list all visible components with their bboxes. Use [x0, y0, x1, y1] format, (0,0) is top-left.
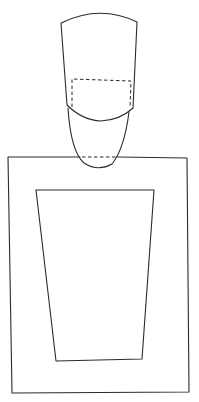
line-drawing — [0, 0, 199, 402]
inner-trapezoid — [36, 190, 154, 361]
outer-rectangle — [8, 157, 189, 393]
dashed-band — [72, 79, 131, 108]
